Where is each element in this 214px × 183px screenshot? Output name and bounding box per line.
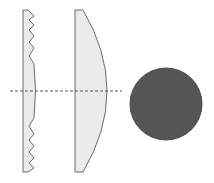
sphere: [130, 68, 202, 140]
fresnel-lens: [23, 10, 36, 172]
lens-diagram: [0, 0, 214, 183]
